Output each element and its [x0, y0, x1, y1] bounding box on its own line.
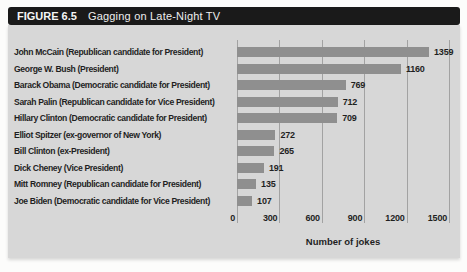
category-label: Hillary Clinton (Democratic candidate fo…: [14, 113, 207, 123]
bar: [237, 146, 274, 156]
value-label: 265: [279, 146, 293, 156]
value-label: 769: [351, 80, 365, 90]
x-axis-title: Number of jokes: [306, 236, 380, 247]
category-label: Sarah Palin (Republican candidate for Vi…: [14, 97, 215, 107]
figure-header: FIGURE 6.5 Gagging on Late-Night TV: [8, 7, 460, 25]
bar: [237, 80, 346, 90]
x-tick-label: 300: [247, 213, 277, 223]
chart-panel: John McCain (Republican candidate for Pr…: [8, 25, 460, 258]
x-tick-label: 1500: [417, 213, 447, 223]
bar: [237, 97, 338, 107]
x-tick-label: 900: [332, 213, 362, 223]
bar: [237, 113, 337, 123]
bar: [237, 179, 256, 189]
category-label: Barack Obama (Democratic candidate for P…: [14, 80, 210, 90]
value-label: 709: [342, 113, 356, 123]
figure-number-label: FIGURE 6.5: [17, 10, 77, 22]
value-label: 135: [261, 179, 275, 189]
bar: [237, 196, 252, 206]
value-label: 1160: [406, 64, 425, 74]
x-tick-label: 1200: [375, 213, 405, 223]
value-label: 107: [257, 196, 271, 206]
category-label: Bill Clinton (ex-President): [14, 146, 110, 156]
bar: [237, 64, 401, 74]
category-label: Joe Biden (Democratic candidate for Vice…: [14, 196, 210, 206]
value-label: 272: [280, 130, 294, 140]
figure-title: Gagging on Late-Night TV: [88, 10, 220, 22]
value-label: 712: [343, 97, 357, 107]
gridline-1500: [449, 40, 450, 223]
figure-6-5: FIGURE 6.5 Gagging on Late-Night TV John…: [0, 0, 467, 272]
value-label: 1359: [434, 47, 453, 57]
category-label: Elliot Spitzer (ex-governor of New York): [14, 130, 161, 140]
x-tick-label: 0: [205, 213, 235, 223]
category-label: Dick Cheney (Vice President): [14, 163, 123, 173]
category-label: John McCain (Republican candidate for Pr…: [14, 47, 203, 57]
category-label: George W. Bush (President): [14, 64, 119, 74]
bar: [237, 47, 429, 57]
category-label: Mitt Romney (Republican candidate for Pr…: [14, 179, 201, 189]
bar: [237, 130, 275, 140]
value-label: 191: [269, 163, 283, 173]
bar: [237, 163, 264, 173]
x-tick-label: 600: [290, 213, 320, 223]
